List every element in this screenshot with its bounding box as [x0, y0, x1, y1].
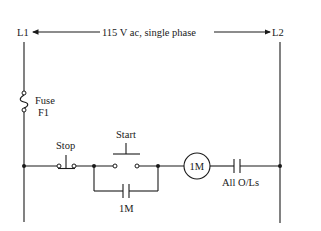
right-junction-dot: [278, 164, 282, 168]
fuse-icon: [20, 91, 28, 112]
start-pushbutton-icon: [113, 143, 140, 168]
fuse-id-label: F1: [38, 107, 49, 118]
voltage-label: 115 V ac, single phase: [102, 27, 196, 38]
overload-contacts-label: All O/Ls: [222, 177, 259, 188]
start-label: Start: [116, 129, 136, 140]
stop-pushbutton-icon: [57, 155, 76, 169]
supply-header: L1 115 V ac, single phase L2: [17, 27, 284, 38]
seal-in-branch: 1M: [94, 166, 158, 214]
coil-label: 1M: [190, 161, 205, 172]
ladder-diagram: L1 115 V ac, single phase L2 Fuse F1 Sto…: [0, 0, 321, 231]
rung-1: Stop Start 1M 1M: [22, 129, 282, 214]
l1-rail: Fuse F1: [20, 42, 55, 222]
seal-in-contact-label: 1M: [119, 203, 134, 214]
l2-label: L2: [272, 27, 284, 38]
l1-label: L1: [17, 27, 29, 38]
stop-label: Stop: [56, 140, 75, 151]
overload-contact-icon: [234, 159, 240, 173]
fuse-label: Fuse: [35, 95, 55, 106]
no-contact-icon: [123, 184, 129, 198]
